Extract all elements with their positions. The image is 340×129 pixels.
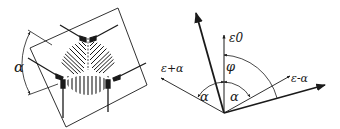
eps-minus-alpha-label: ε-α	[291, 72, 309, 85]
eps-plus-alpha-label: ε+α	[161, 62, 184, 75]
alpha-left-label: α	[200, 89, 209, 104]
gauge-grid-lower	[68, 76, 108, 96]
angle-alpha-label: α	[14, 58, 24, 76]
phi-label: φ	[226, 59, 236, 74]
eps-zero-label: ε0	[229, 31, 243, 45]
alpha-right-label: α	[230, 89, 239, 104]
angle-alpha-dimension	[22, 30, 58, 95]
principal-axis-arrow-right	[224, 85, 325, 113]
strain-vector-diagram	[161, 13, 325, 113]
rosette-gauge: α	[14, 8, 147, 127]
diagram-canvas: α ε+α ε0 ε-α φ α α	[0, 0, 340, 129]
